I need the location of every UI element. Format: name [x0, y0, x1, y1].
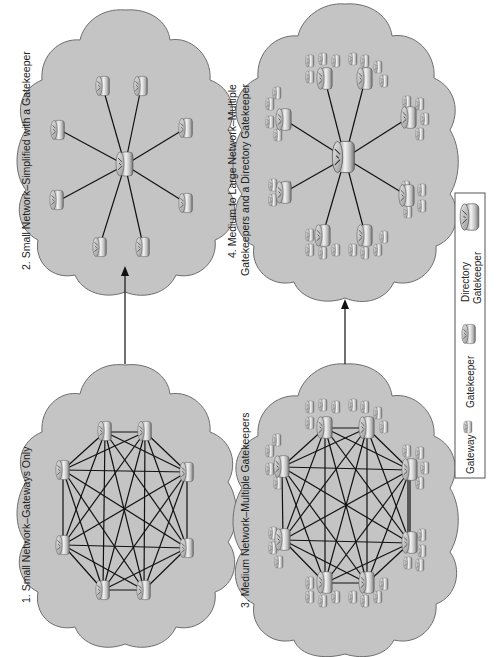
legend: Gateway Gatekeeper Directory Gatekeeper — [455, 193, 485, 478]
legend-gateway-label: Gateway — [465, 435, 476, 474]
panel-4-label-line2: Gatekeepers and a Directory Gatekeeper — [239, 83, 251, 276]
panel-2-label: 2. Small Network–Simplified with a Gatek… — [20, 51, 32, 270]
panel-3-label: 3. Medium Network–Multiple Gatekeepers — [239, 412, 251, 608]
directory-gatekeeper-icon — [460, 204, 479, 230]
network-evolution-diagram: 2. Small Network–Simplified with a Gatek… — [0, 0, 497, 657]
cloud-net3 — [233, 364, 458, 657]
gateway-icon — [464, 421, 473, 433]
legend-directory-label-line1: Directory — [460, 262, 471, 302]
panel-1-label: 1. Small Network–Gateways Only — [20, 446, 32, 603]
gatekeeper-icon — [462, 324, 476, 343]
panel-small-network-gateways-only: 1. Small Network–Gateways Only — [17, 365, 236, 648]
panel-small-network-gatekeeper: 2. Small Network–Simplified with a Gatek… — [17, 10, 236, 295]
panel-medium-network-multiple-gatekeepers: 3. Medium Network–Multiple Gatekeepers — [233, 364, 458, 657]
panel-4-label-line1: 4. Medium to Large Network–Multiple — [226, 84, 238, 258]
legend-directory-label-line2: Gatekeeper — [472, 251, 483, 304]
arrow-net3-to-net4 — [341, 299, 349, 364]
cloud-net1 — [17, 365, 236, 648]
legend-gatekeeper-label: Gatekeeper — [465, 355, 476, 408]
panel-directory-gatekeeper-network: 4. Medium to Large Network–Multiple Gate… — [226, 4, 458, 302]
gatekeeper-hub-icon — [116, 152, 133, 176]
directory-gatekeeper-hub-icon — [332, 141, 354, 172]
